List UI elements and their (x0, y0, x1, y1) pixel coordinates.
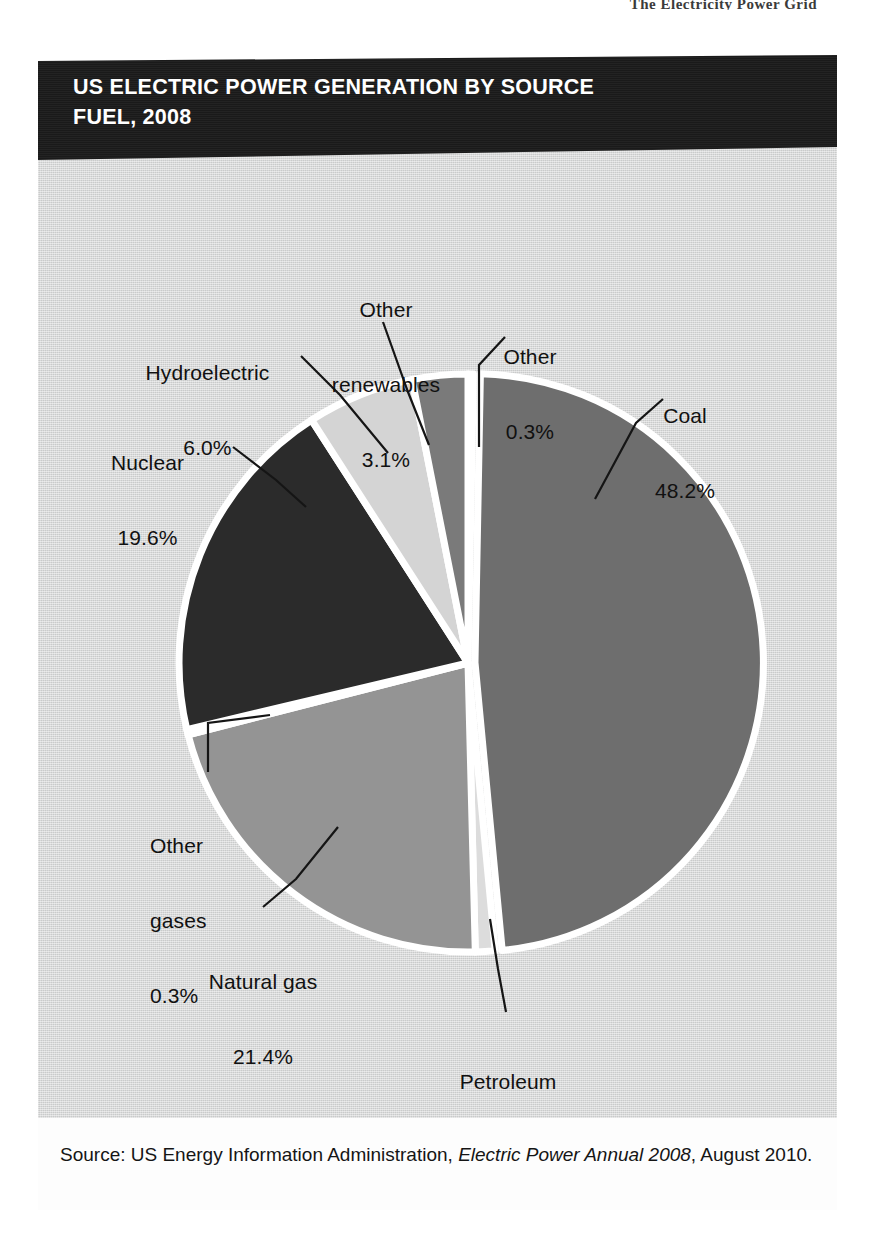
label-nuclear: Nuclear 19.6% (70, 400, 225, 600)
label-other: Other 0.3% (470, 294, 590, 494)
figure-source-band: Source: US Energy Information Administra… (38, 1118, 837, 1210)
pie-chart-area: Other renewables 3.1% Other 0.3% Coal 48… (38, 147, 837, 1210)
figure-title-line-1: US ELECTRIC POWER GENERATION BY SOURCE (73, 72, 773, 102)
label-coal: Coal 48.2% (620, 353, 750, 553)
figure-source: Source: US Energy Information Administra… (60, 1144, 812, 1166)
page-running-head: The Electricity Power Grid (0, 0, 877, 10)
label-natural-gas: Natural gas 21.4% (158, 919, 368, 1119)
source-suffix: , August 2010. (691, 1144, 813, 1165)
source-publication-title: Electric Power Annual 2008 (458, 1144, 691, 1165)
figure-card: Other renewables 3.1% Other 0.3% Coal 48… (38, 55, 837, 1210)
source-prefix: Source: US Energy Information Administra… (60, 1144, 458, 1165)
figure-title-banner: US ELECTRIC POWER GENERATION BY SOURCE F… (38, 55, 837, 160)
figure-title: US ELECTRIC POWER GENERATION BY SOURCE F… (73, 72, 773, 132)
label-other-renewables: Other renewables 3.1% (296, 247, 476, 522)
figure-title-line-2: FUEL, 2008 (73, 102, 773, 132)
